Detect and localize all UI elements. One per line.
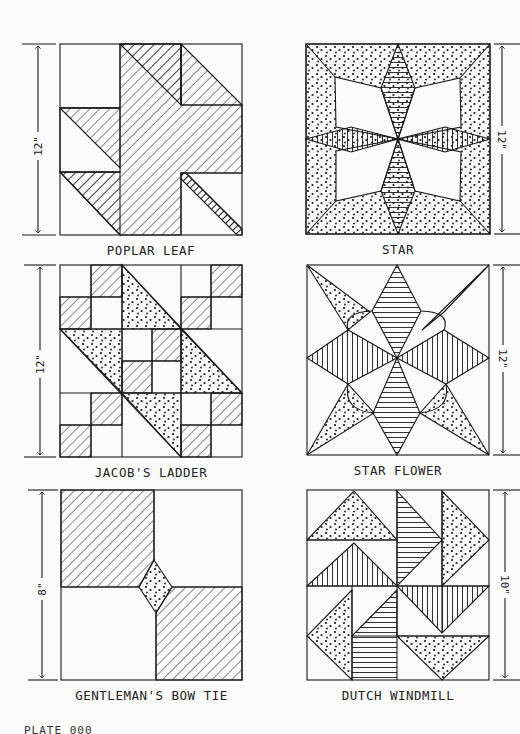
dutch-windmill-block <box>307 490 520 680</box>
caption-jacobs-ladder: JACOB'S LADDER <box>60 465 242 480</box>
dim-label-jacobs-ladder: 12" <box>34 354 47 374</box>
bow-tie-block <box>28 490 242 680</box>
caption-poplar-leaf: POPLAR LEAF <box>60 243 242 258</box>
quilt-diagrams: 12" 12" 12" 12" 8" 10" <box>0 0 520 734</box>
plate-label: PLATE 000 <box>24 724 93 734</box>
dim-label-star: 12" <box>495 130 508 150</box>
caption-star: STAR <box>306 242 490 257</box>
dim-label-bow-tie: 8" <box>36 582 49 595</box>
dim-label-star-flower: 12" <box>496 349 509 369</box>
caption-dutch-windmill: DUTCH WINDMILL <box>307 688 489 703</box>
star-flower-block <box>307 265 520 455</box>
caption-bow-tie: GENTLEMAN'S BOW TIE <box>61 688 242 703</box>
caption-star-flower: STAR FLOWER <box>307 463 489 478</box>
jacobs-ladder-block <box>24 265 242 457</box>
quilt-plate-page: 12" 12" 12" 12" 8" 10" POPLAR LEAF STAR … <box>0 0 520 734</box>
star-block <box>306 44 520 234</box>
poplar-leaf-block <box>22 44 242 235</box>
dim-label-dutch-windmill: 10" <box>498 575 511 595</box>
dim-label-poplar-leaf: 12" <box>32 136 45 156</box>
